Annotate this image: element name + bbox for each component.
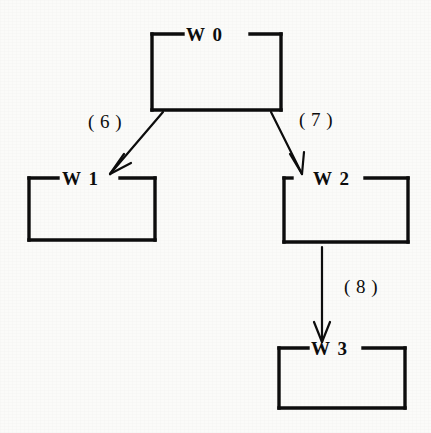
edge-label-8: ( 8 ) — [344, 277, 378, 296]
diagram-vector-layer — [0, 0, 431, 433]
diagram-canvas: W 0 W 1 W 2 W 3 ( 6 ) ( 7 ) ( 8 ) — [0, 0, 431, 433]
node-box-w0 — [152, 34, 281, 110]
node-label-w2: W 2 — [313, 169, 350, 188]
node-label-w3: W 3 — [311, 339, 348, 358]
edge-label-6: ( 6 ) — [88, 112, 122, 131]
node-label-w0: W 0 — [186, 25, 223, 44]
edge-arrow-w2-w3 — [314, 247, 330, 342]
edge-label-7: ( 7 ) — [299, 110, 333, 129]
node-label-w1: W 1 — [62, 169, 99, 188]
